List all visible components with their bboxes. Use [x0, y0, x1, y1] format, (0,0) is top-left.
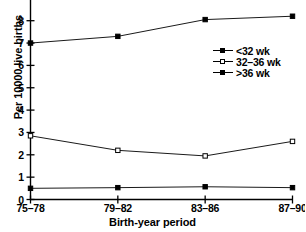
- y-tick-label: 6: [10, 59, 24, 71]
- series-3: [28, 185, 294, 191]
- series-line: [31, 187, 293, 189]
- y-tick-label: 5: [10, 82, 24, 94]
- y-tick-label: 2: [10, 149, 24, 161]
- data-point-marker: [203, 154, 207, 158]
- x-tick-label: 87–90: [267, 202, 306, 214]
- data-point-marker: [28, 134, 32, 138]
- y-tick-label: 1: [10, 171, 24, 183]
- legend: <32 wk 32–36 wk >36 wk: [213, 45, 281, 78]
- data-point-marker: [116, 185, 120, 189]
- open-square-marker-icon: [213, 56, 233, 67]
- x-tick-label: 75–78: [5, 202, 57, 214]
- y-tick-label: 4: [10, 104, 24, 116]
- data-point-marker: [116, 34, 120, 38]
- y-tick-label: 3: [10, 126, 24, 138]
- x-axis-title: Birth-year period: [0, 216, 305, 228]
- data-point-marker: [203, 185, 207, 189]
- series-1: [28, 14, 294, 45]
- data-point-marker: [203, 17, 207, 21]
- legend-item-32-36[interactable]: 32–36 wk: [213, 56, 281, 67]
- data-point-marker: [290, 185, 294, 189]
- data-point-marker: [28, 186, 32, 190]
- data-point-marker: [290, 139, 294, 143]
- x-tick-label: 83–86: [179, 202, 231, 214]
- y-tick-label: 7: [10, 37, 24, 49]
- data-point-marker: [290, 14, 294, 18]
- plot-area: [0, 0, 305, 232]
- legend-label: >36 wk: [236, 67, 270, 79]
- data-point-marker: [116, 148, 120, 152]
- data-point-marker: [28, 41, 32, 45]
- series-2: [28, 134, 294, 159]
- filled-square-marker-icon: [213, 45, 233, 56]
- line-chart: Per 10000 live births Birth-year period …: [0, 0, 305, 232]
- series-line: [31, 136, 293, 156]
- y-tick-label: 8: [10, 15, 24, 27]
- data-series-layer: [28, 14, 294, 190]
- series-line: [31, 16, 293, 43]
- filled-square-marker-icon: [213, 67, 233, 78]
- legend-item-gt36[interactable]: >36 wk: [213, 67, 281, 78]
- legend-item-lt32[interactable]: <32 wk: [213, 45, 281, 56]
- x-tick-label: 79–82: [92, 202, 144, 214]
